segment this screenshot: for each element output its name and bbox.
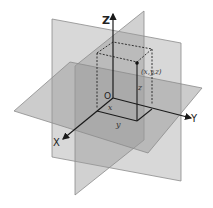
- point-label: (x,y,z): [141, 68, 162, 76]
- coordinate-diagram: Z Y X O (x,y,z) z x y: [0, 0, 213, 208]
- x-axis-label: X: [53, 137, 60, 148]
- z-component-label: z: [137, 83, 142, 92]
- point-marker: [135, 61, 139, 65]
- z-axis-label: Z: [102, 14, 110, 27]
- origin-label: O: [104, 91, 111, 101]
- y-component-label: y: [115, 120, 121, 129]
- diagram-canvas: Z Y X O (x,y,z) z x y: [0, 0, 213, 208]
- y-axis-label: Y: [190, 113, 198, 124]
